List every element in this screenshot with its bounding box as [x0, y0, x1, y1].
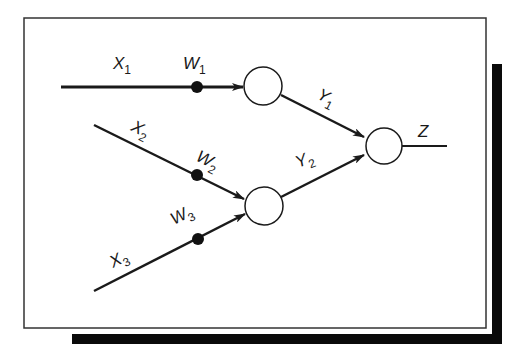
- weight-node-w3: [192, 233, 204, 245]
- label-z: Z: [417, 122, 429, 141]
- diagram-frame: [24, 18, 486, 328]
- weight-node-w1: [191, 81, 203, 93]
- label-x1: X: [112, 54, 125, 73]
- hidden-neuron-2: [245, 187, 283, 225]
- frame-shadow-right: [492, 64, 502, 344]
- weight-node-w2: [191, 169, 203, 181]
- output-neuron: [366, 128, 402, 164]
- hidden-neuron-1: [244, 67, 282, 105]
- frame-shadow-bottom: [72, 334, 502, 344]
- neural-network-diagram: X1 W1 X2 W2 X3 W3 Y1 Y2 Z: [0, 0, 527, 352]
